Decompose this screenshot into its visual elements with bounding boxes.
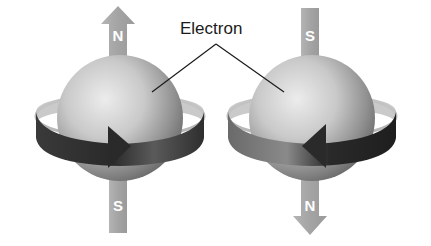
left-bottom-pole-label: S [108,197,128,214]
electron-spin-diagram: N S S N Electron [0,0,431,246]
right-top-pole-label: S [300,27,320,44]
right-bottom-pole-label: N [300,197,320,214]
leader-line-left [152,44,216,92]
electron-label: Electron [180,19,242,39]
left-top-pole-label: N [108,27,128,44]
